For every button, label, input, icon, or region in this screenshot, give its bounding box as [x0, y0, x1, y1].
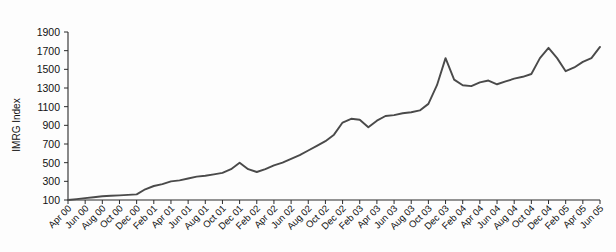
y-tick-label: 1300 — [37, 82, 61, 94]
y-tick-label: 1900 — [37, 26, 61, 38]
y-tick-label: 500 — [42, 157, 60, 169]
x-axis-ticks: Apr 00Jun 00Aug 00Oct 00Dec 00Feb 01Apr … — [46, 200, 606, 232]
y-axis-title: IMRG Index — [11, 98, 22, 151]
y-tick-label: 900 — [42, 119, 60, 131]
axis-lines — [68, 32, 600, 200]
imrg-index-series — [68, 47, 600, 200]
y-tick-label: 100 — [42, 194, 60, 206]
line-chart-plot: IMRG Index 10030050070090011001300150017… — [0, 0, 616, 252]
y-tick-label: 700 — [42, 138, 60, 150]
y-tick-label: 1500 — [37, 63, 61, 75]
chart-figure: IMRG Index 10030050070090011001300150017… — [0, 0, 616, 252]
y-tick-label: 1700 — [37, 45, 61, 57]
y-axis-ticks: 10030050070090011001300150017001900 — [37, 26, 68, 206]
y-tick-label: 300 — [42, 175, 60, 187]
y-tick-label: 1100 — [37, 101, 60, 113]
